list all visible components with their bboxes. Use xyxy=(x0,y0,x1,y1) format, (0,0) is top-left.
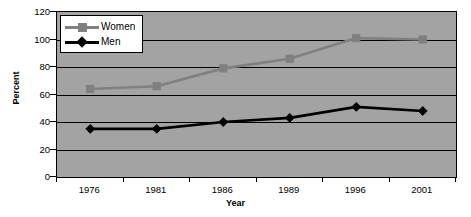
data-point-men-2001 xyxy=(418,107,427,116)
x-axis-ticklabel: 2001 xyxy=(411,184,432,195)
y-axis-ticklabel: 40 xyxy=(16,116,50,127)
data-point-men-1981 xyxy=(152,124,161,133)
x-axis-ticklabel: 1989 xyxy=(278,184,299,195)
data-point-women-2001 xyxy=(419,36,426,43)
legend-label-men: Men xyxy=(99,36,120,47)
x-axis-ticklabel: 1976 xyxy=(79,184,100,195)
chart-legend: Women Men xyxy=(60,15,143,53)
x-axis-ticklabel: 1996 xyxy=(345,184,366,195)
y-axis-ticklabel: 60 xyxy=(16,88,50,99)
data-point-women-1981 xyxy=(153,83,160,90)
y-axis-ticklabel: 0 xyxy=(16,171,50,182)
x-axis-tickmark xyxy=(123,177,124,182)
legend-item-women: Women xyxy=(65,19,135,34)
x-axis-title: Year xyxy=(0,198,471,208)
x-axis-tickmark xyxy=(189,177,190,182)
line-chart: Percent 020406080100120 1976198119861989… xyxy=(0,0,471,217)
data-point-men-1976 xyxy=(86,124,95,133)
y-axis-ticklabel: 120 xyxy=(16,6,50,17)
data-point-women-1989 xyxy=(286,55,293,62)
legend-item-men: Men xyxy=(65,34,135,49)
legend-label-women: Women xyxy=(99,21,135,32)
series-line-men xyxy=(90,107,423,129)
data-point-women-1986 xyxy=(220,65,227,72)
y-axis-ticklabels: 020406080100120 xyxy=(16,0,50,217)
x-axis-ticklabel: 1986 xyxy=(212,184,233,195)
x-axis-tickmark xyxy=(56,177,57,182)
legend-swatch-men xyxy=(65,36,99,48)
data-point-women-1996 xyxy=(353,35,360,42)
data-point-women-1976 xyxy=(87,85,94,92)
x-axis-tickmark xyxy=(389,177,390,182)
x-axis-ticklabel: 1981 xyxy=(145,184,166,195)
x-axis-tickmark xyxy=(455,177,456,182)
data-point-men-1996 xyxy=(352,102,361,111)
y-axis-ticklabel: 20 xyxy=(16,143,50,154)
data-point-men-1989 xyxy=(285,113,294,122)
legend-swatch-women xyxy=(65,21,99,33)
data-point-men-1986 xyxy=(219,118,228,127)
x-axis-tickmark xyxy=(322,177,323,182)
y-axis-ticklabel: 100 xyxy=(16,33,50,44)
y-axis-ticklabel: 80 xyxy=(16,61,50,72)
x-axis-tickmark xyxy=(256,177,257,182)
